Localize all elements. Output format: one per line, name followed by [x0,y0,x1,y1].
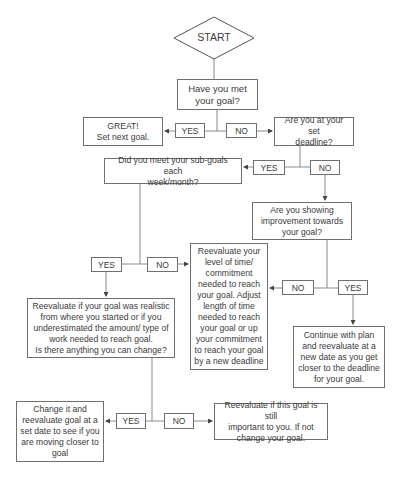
reevaluate-realistic: Reevaluate if your goal was realistic fr… [27,298,175,358]
question-subgoals: Did you meet your sub-goals each week/mo… [104,158,242,184]
yes-label-2: YES [253,160,285,175]
no-label-4: NO [282,280,314,295]
yes-label-5: YES [116,413,146,429]
reevaluate-still-important: Reevaluate if this goal is still importa… [214,403,328,440]
question-improvement: Are you showing improvement towards your… [252,202,352,240]
question-at-deadline: Are you at your set deadline? [274,117,354,146]
yes-label-4: YES [338,280,368,295]
great-set-next-goal: GREAT! Set next goal. [83,117,163,146]
question-met-goal: Have you met your goal? [177,79,258,110]
reevaluate-time-commitment: Reevaluate your level of time/ commitmen… [190,243,268,370]
start-label: START [192,31,236,43]
no-label-1: NO [226,123,257,138]
change-it-reevaluate: Change it and reevaluate goal at a set d… [16,401,104,462]
yes-label-3: YES [91,257,122,272]
yes-label-1: YES [175,123,205,138]
no-label-3: NO [147,257,178,272]
no-label-2: NO [310,160,340,175]
continue-with-plan: Continue with plan and reevaluate at a n… [293,326,385,388]
no-label-5: NO [164,413,194,429]
